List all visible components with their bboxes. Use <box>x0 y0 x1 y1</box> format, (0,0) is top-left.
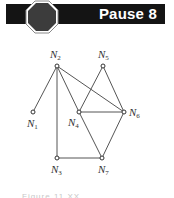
figure-caption: Figure 11.XX <box>22 190 80 198</box>
node-N1 <box>31 110 35 114</box>
node-label-N7: N7 <box>98 164 109 179</box>
edge-N2-N4 <box>57 66 79 112</box>
edge-N4-N7 <box>79 112 102 158</box>
node-N4 <box>77 110 81 114</box>
edge-N2-N1 <box>33 66 57 112</box>
node-N3 <box>55 156 59 160</box>
node-N7 <box>100 156 104 160</box>
node-label-N2: N2 <box>50 49 61 64</box>
node-N2 <box>55 64 59 68</box>
node-label-N3: N3 <box>51 164 62 179</box>
node-label-N5: N5 <box>98 49 109 64</box>
node-label-N6: N6 <box>129 107 140 122</box>
edge-N6-N7 <box>102 112 124 158</box>
node-label-N4: N4 <box>68 117 79 132</box>
edge-N5-N4 <box>79 66 103 112</box>
network-graph <box>0 0 174 198</box>
node-N6 <box>122 110 126 114</box>
node-N5 <box>101 64 105 68</box>
node-label-N1: N1 <box>27 118 38 133</box>
